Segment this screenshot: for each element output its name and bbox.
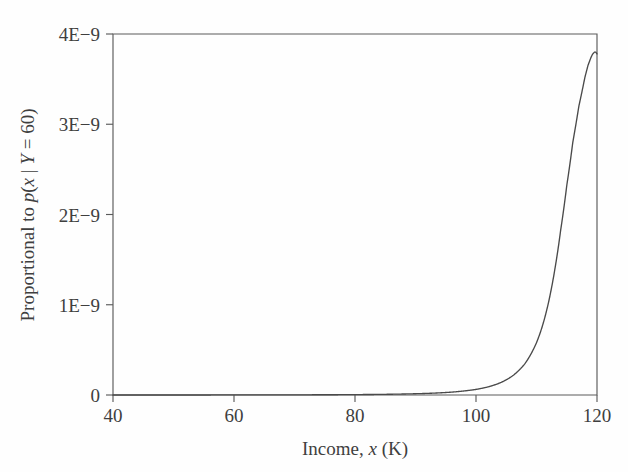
- y-axis-tick-labels: 01E−92E−93E−94E−9: [59, 24, 100, 406]
- y-tick-label: 0: [91, 385, 101, 406]
- x-tick-label-100: 100: [462, 405, 491, 426]
- y-axis-title: Proportional to p(x | Y = 60): [17, 109, 39, 322]
- x-tick-label-120: 120: [583, 405, 612, 426]
- y-tick-label: 1E−9: [59, 295, 100, 316]
- x-axis-title-part-3: (K): [377, 438, 408, 460]
- y-tick-label: 3E−9: [59, 114, 100, 135]
- data-curve-line: [113, 52, 597, 395]
- plot-frame: [113, 34, 597, 395]
- x-axis-tick-marks: [113, 395, 597, 402]
- y-axis-title-part-1: Proportional to: [17, 202, 38, 321]
- chart-figure: 406080100120 01E−92E−93E−94E−9 Income, x…: [0, 0, 628, 472]
- x-tick-label-40: 40: [104, 405, 123, 426]
- figure-page: 406080100120 01E−92E−93E−94E−9 Income, x…: [0, 0, 628, 472]
- x-axis-tick-labels: 406080100120: [104, 405, 612, 426]
- y-axis-title-bar: |: [17, 165, 38, 178]
- x-tick-label-80: 80: [346, 405, 365, 426]
- y-axis-title-part-7: = 60): [17, 109, 39, 155]
- x-axis-title: Income, x (K): [302, 438, 408, 460]
- x-tick-label-60: 60: [225, 405, 244, 426]
- y-axis-title-p: p: [17, 193, 38, 205]
- y-axis-tick-marks: [106, 34, 113, 395]
- x-axis-title-part-1: Income,: [302, 438, 368, 459]
- y-tick-label: 2E−9: [59, 205, 100, 226]
- y-tick-label: 4E−9: [59, 24, 100, 45]
